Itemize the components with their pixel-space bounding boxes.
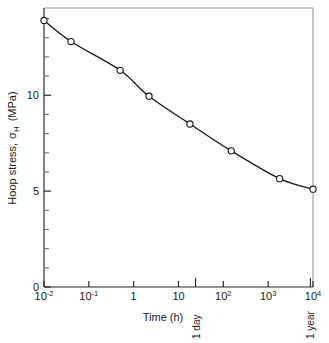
x-tick-label-0.1: 10-1 — [79, 289, 98, 302]
x-axis-tick-labels: 10-210-1110102103104 — [35, 289, 322, 302]
x-tick-label-10000: 104 — [305, 289, 321, 302]
x-axis-ticks — [44, 281, 313, 287]
x-tick-label-0.01: 10-2 — [35, 289, 54, 302]
annotation-label-1-year: 1 year — [305, 311, 316, 339]
y-axis-title: Hoop stress,σH(MPa) — [6, 91, 21, 204]
y-axis-title-main: Hoop stress, — [6, 143, 18, 205]
y-axis-title-subscript: H — [12, 126, 21, 132]
x-tick-label-1: 1 — [131, 290, 137, 302]
chart-figure: 0510 10-210-1110102103104 1 day1 year Ti… — [0, 0, 329, 343]
y-axis-ticks — [44, 19, 51, 287]
y-tick-label-10: 10 — [27, 89, 39, 101]
annotation-label-1-day: 1 day — [191, 315, 202, 339]
x-tick-label-1000: 103 — [260, 289, 276, 302]
x-tick-label-10: 10 — [172, 290, 184, 302]
data-point-7 — [310, 186, 316, 192]
y-axis-title-text: Hoop stress,σH(MPa) — [6, 91, 21, 204]
data-point-4 — [187, 121, 193, 127]
y-axis-tick-labels: 0510 — [27, 89, 39, 293]
data-point-3 — [146, 93, 152, 99]
hoop-stress-vs-time-chart: 0510 10-210-1110102103104 1 day1 year Ti… — [0, 0, 329, 343]
x-tick-label-100: 102 — [215, 289, 231, 302]
data-point-0 — [41, 17, 47, 23]
data-series-line — [44, 20, 313, 189]
x-axis-title: Time (h) — [143, 311, 184, 323]
data-point-5 — [228, 148, 234, 154]
data-series-markers — [41, 17, 316, 192]
y-axis-title-units: (MPa) — [6, 91, 18, 121]
data-point-6 — [277, 176, 283, 182]
y-tick-label-5: 5 — [33, 185, 39, 197]
data-point-2 — [117, 67, 123, 73]
data-point-1 — [68, 38, 74, 44]
